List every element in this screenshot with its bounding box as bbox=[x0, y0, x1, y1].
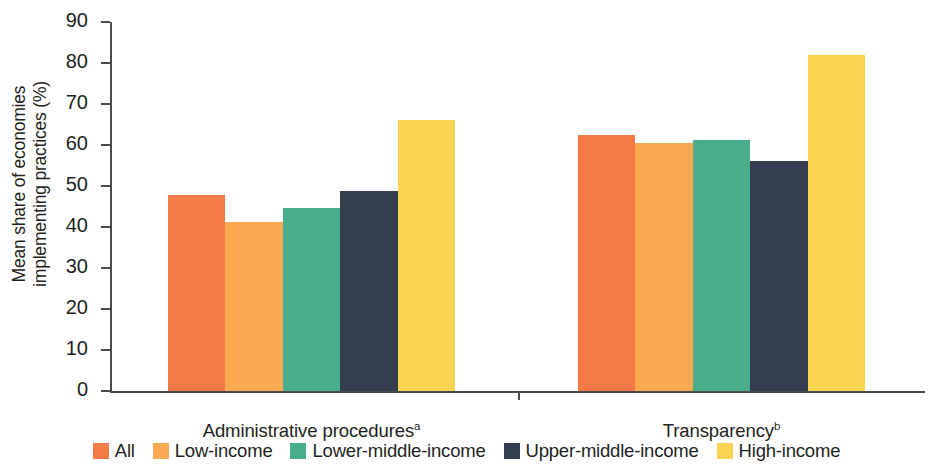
bar bbox=[635, 143, 692, 391]
y-axis-tick: 70 bbox=[101, 103, 110, 105]
y-axis-tick-label: 40 bbox=[66, 214, 88, 237]
legend-item[interactable]: Lower-middle-income bbox=[290, 440, 485, 462]
legend-item[interactable]: Upper-middle-income bbox=[504, 440, 699, 462]
y-axis-tick-label: 20 bbox=[66, 296, 88, 319]
bar bbox=[283, 208, 340, 391]
legend-item[interactable]: All bbox=[93, 440, 135, 462]
y-axis-tick: 80 bbox=[101, 62, 110, 64]
legend-item[interactable]: High-income bbox=[717, 440, 841, 462]
legend-item[interactable]: Low-income bbox=[153, 440, 273, 462]
bar bbox=[750, 161, 807, 391]
y-axis-tick: 40 bbox=[101, 226, 110, 228]
y-axis-tick-label: 30 bbox=[66, 255, 88, 278]
y-axis-tick: 60 bbox=[101, 144, 110, 146]
bar bbox=[808, 55, 865, 391]
bar bbox=[340, 191, 397, 391]
legend-swatch-icon bbox=[290, 443, 306, 459]
legend-label: Lower-middle-income bbox=[312, 440, 485, 462]
bar bbox=[398, 120, 455, 391]
y-axis-tick: 20 bbox=[101, 308, 110, 310]
plot-area: 0102030405060708090 Administrative proce… bbox=[110, 22, 925, 391]
bar bbox=[693, 140, 750, 391]
legend-label: All bbox=[115, 440, 135, 462]
bar bbox=[578, 135, 635, 391]
y-axis-tick-label: 50 bbox=[66, 173, 88, 196]
y-axis-tick-label: 70 bbox=[66, 91, 88, 114]
y-axis-tick-label: 60 bbox=[66, 132, 88, 155]
y-axis-tick: 50 bbox=[101, 185, 110, 187]
legend-swatch-icon bbox=[717, 443, 733, 459]
y-axis-line bbox=[110, 22, 112, 391]
y-axis-tick: 90 bbox=[101, 21, 110, 23]
y-axis-title: Mean share of economies implementing pra… bbox=[9, 29, 51, 339]
legend-swatch-icon bbox=[504, 443, 520, 459]
legend-swatch-icon bbox=[93, 443, 109, 459]
category-label-footnote-marker: b bbox=[774, 420, 780, 432]
y-axis-title-container: Mean share of economies implementing pra… bbox=[0, 0, 60, 400]
bar bbox=[225, 222, 282, 391]
y-axis-tick-label: 10 bbox=[66, 337, 88, 360]
y-axis-tick-label: 0 bbox=[77, 378, 88, 401]
chart-legend: AllLow-incomeLower-middle-incomeUpper-mi… bbox=[0, 437, 933, 465]
legend-label: Low-income bbox=[175, 440, 273, 462]
legend-label: High-income bbox=[739, 440, 841, 462]
category-label-footnote-marker: a bbox=[414, 420, 420, 432]
bar-chart-figure: Mean share of economies implementing pra… bbox=[0, 0, 933, 465]
x-axis-group-divider-tick bbox=[518, 391, 520, 400]
legend-swatch-icon bbox=[153, 443, 169, 459]
y-axis-tick-label: 80 bbox=[66, 50, 88, 73]
y-axis-tick: 30 bbox=[101, 267, 110, 269]
y-axis-tick-label: 90 bbox=[66, 9, 88, 32]
y-axis-tick: 10 bbox=[101, 349, 110, 351]
bar bbox=[168, 195, 225, 391]
legend-label: Upper-middle-income bbox=[526, 440, 699, 462]
y-axis-tick: 0 bbox=[101, 390, 110, 392]
